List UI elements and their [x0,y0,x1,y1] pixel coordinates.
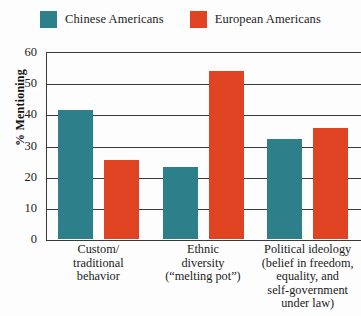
x-axis-category-label: Ethnicdiversity(“melting pot”) [143,243,264,284]
bar [104,160,139,239]
category-label-line: traditional [38,257,159,271]
category-label-line: under law) [247,297,361,311]
bar [163,167,198,239]
y-axis-tick-label: 50 [25,76,38,91]
category-label-line: (“melting pot”) [143,270,264,284]
category-label-line: behavior [38,270,159,284]
x-axis-category-label: Political ideology(belief in freedom,equ… [247,243,361,311]
category-label-line: (belief in freedom, [247,257,361,271]
chart-legend: Chinese AmericansEuropean Americans [0,0,361,38]
category-label-line: self-government [247,284,361,298]
bar-chart-figure: Chinese AmericansEuropean Americans % Me… [0,0,361,316]
bar [313,128,348,239]
x-axis-category-label: Custom/traditionalbehavior [38,243,159,284]
legend-entry: Chinese Americans [40,11,164,28]
category-label-line: equality, and [247,270,361,284]
category-label-line: diversity [143,257,264,271]
y-axis-tick-label: 60 [25,45,38,60]
y-axis-tick-label: 40 [25,107,38,122]
x-axis-category-labels: Custom/traditionalbehaviorEthnicdiversit… [46,243,360,313]
legend-swatch-chinese-americans [40,11,57,28]
category-label-line: Custom/ [38,243,159,257]
bar [209,71,244,239]
y-axis-tick-labels: 0102030405060 [0,52,42,239]
legend-label: European Americans [215,12,321,27]
y-axis-tick-label: 10 [25,200,38,215]
y-axis-tick-label: 20 [25,169,38,184]
legend-entry: European Americans [190,11,321,28]
bar [267,139,302,239]
legend-label: Chinese Americans [65,12,164,27]
bars-layer [46,52,360,239]
y-axis-tick-label: 0 [31,232,37,247]
bar [58,110,93,239]
category-label-line: Political ideology [247,243,361,257]
legend-swatch-european-americans [190,11,207,28]
category-label-line: Ethnic [143,243,264,257]
y-axis-tick-label: 30 [25,138,38,153]
